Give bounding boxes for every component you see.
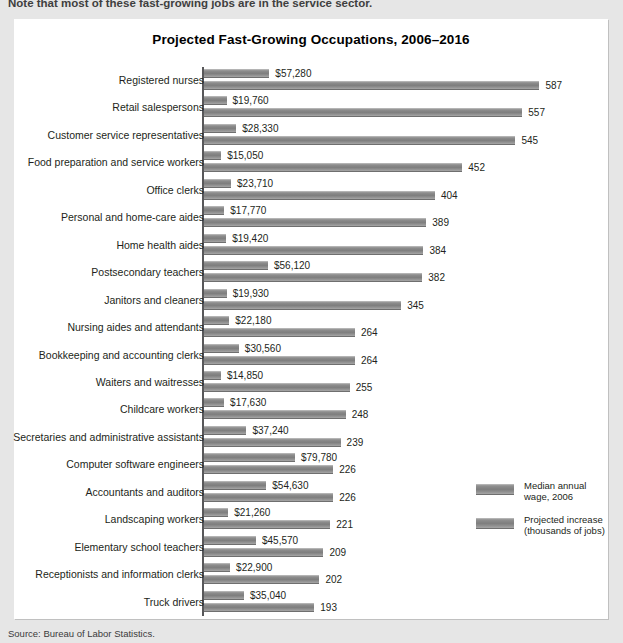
bar-median-wage: [204, 371, 221, 380]
bar-value-wage: $56,120: [274, 260, 310, 271]
bar-median-wage: [204, 481, 266, 490]
bar-projected-increase: [204, 465, 333, 474]
bar-projected-increase: [204, 246, 423, 255]
chart-row: Office clerks$23,710404: [14, 177, 608, 204]
chart-row: Bookkeeping and accounting clerks$30,560…: [14, 342, 608, 369]
bar-group: $35,040193: [204, 589, 608, 616]
bar-value-wage: $79,780: [301, 452, 337, 463]
bar-projected-increase: [204, 548, 323, 557]
category-label: Truck drivers: [144, 589, 204, 616]
bar-value-wage: $22,900: [236, 562, 272, 573]
bar-group: $79,780226: [204, 451, 608, 478]
chart-legend: Median annual wage, 2006Projected increa…: [476, 480, 606, 548]
bar-median-wage: [204, 563, 230, 572]
bar-median-wage: [204, 124, 236, 133]
bar-median-wage: [204, 344, 239, 353]
context-note: Note that most of these fast-growing job…: [8, 0, 608, 10]
bar-median-wage: [204, 261, 268, 270]
legend-label: Median annual wage, 2006: [524, 480, 586, 502]
bar-value-jobs: 248: [352, 409, 369, 420]
category-label: Food preparation and service workers: [28, 149, 204, 176]
chart-row: Waiters and waitresses$14,850255: [14, 369, 608, 396]
category-label: Registered nurses: [119, 67, 204, 94]
bar-value-wage: $19,760: [233, 95, 269, 106]
chart-row: Childcare workers$17,630248: [14, 396, 608, 423]
category-label: Nursing aides and attendants: [67, 314, 204, 341]
bar-value-jobs: 382: [428, 272, 445, 283]
bar-value-jobs: 221: [336, 519, 353, 530]
chart-row: Secretaries and administrative assistant…: [14, 424, 608, 451]
chart-row: Personal and home-care aides$17,770389: [14, 204, 608, 231]
category-label: Customer service representatives: [48, 122, 204, 149]
bar-group: $14,850255: [204, 369, 608, 396]
bar-projected-increase: [204, 493, 333, 502]
bar-group: $30,560264: [204, 342, 608, 369]
category-label: Waiters and waitresses: [96, 369, 204, 396]
chart-row: Registered nurses$57,280587: [14, 67, 608, 94]
chart-row: Computer software engineers$79,780226: [14, 451, 608, 478]
chart-row: Retail salespersons$19,760557: [14, 94, 608, 121]
bar-group: $22,900202: [204, 561, 608, 588]
bar-median-wage: [204, 179, 231, 188]
bar-median-wage: [204, 96, 227, 105]
category-label: Bookkeeping and accounting clerks: [39, 342, 204, 369]
chart-row: Janitors and cleaners$19,930345: [14, 287, 608, 314]
bar-group: $17,770389: [204, 204, 608, 231]
bar-value-jobs: 452: [468, 162, 485, 173]
bar-group: $15,050452: [204, 149, 608, 176]
bar-median-wage: [204, 398, 224, 407]
bar-value-jobs: 193: [320, 602, 337, 613]
bar-value-wage: $54,630: [272, 480, 308, 491]
legend-label: Projected increase (thousands of jobs): [524, 514, 605, 536]
bar-median-wage: [204, 289, 227, 298]
bar-projected-increase: [204, 575, 319, 584]
bar-value-jobs: 239: [347, 437, 364, 448]
category-label: Landscaping workers: [105, 506, 204, 533]
bar-value-wage: $22,180: [235, 315, 271, 326]
bar-value-wage: $15,050: [227, 150, 263, 161]
bar-value-jobs: 264: [361, 355, 378, 366]
bar-value-wage: $19,420: [232, 233, 268, 244]
bar-projected-increase: [204, 108, 522, 117]
bar-value-jobs: 545: [521, 135, 538, 146]
category-label: Janitors and cleaners: [104, 287, 204, 314]
bar-value-wage: $19,930: [233, 288, 269, 299]
source-caption: Source: Bureau of Labor Statistics.: [8, 628, 155, 639]
bar-group: $57,280587: [204, 67, 608, 94]
bar-value-wage: $45,570: [262, 535, 298, 546]
legend-swatch-icon: [476, 518, 514, 529]
bar-median-wage: [204, 69, 269, 78]
bar-median-wage: [204, 151, 221, 160]
bar-value-jobs: 557: [528, 107, 545, 118]
bar-projected-increase: [204, 136, 515, 145]
bar-value-wage: $57,280: [275, 68, 311, 79]
bar-projected-increase: [204, 356, 355, 365]
bar-projected-increase: [204, 410, 346, 419]
legend-item: Projected increase (thousands of jobs): [476, 514, 606, 548]
category-label: Secretaries and administrative assistant…: [13, 424, 204, 451]
category-label: Elementary school teachers: [74, 534, 204, 561]
bar-median-wage: [204, 316, 229, 325]
bar-value-jobs: 587: [545, 80, 562, 91]
category-label: Childcare workers: [120, 396, 204, 423]
bar-projected-increase: [204, 383, 350, 392]
category-label: Computer software engineers: [66, 451, 204, 478]
bar-projected-increase: [204, 218, 426, 227]
bar-projected-increase: [204, 603, 314, 612]
category-label: Receptionists and information clerks: [35, 561, 204, 588]
chart-row: Truck drivers$35,040193: [14, 589, 608, 616]
bar-projected-increase: [204, 520, 330, 529]
chart-row: Receptionists and information clerks$22,…: [14, 561, 608, 588]
category-label: Home health aides: [116, 232, 204, 259]
bar-group: $19,760557: [204, 94, 608, 121]
bar-median-wage: [204, 206, 224, 215]
bar-projected-increase: [204, 301, 401, 310]
category-label: Personal and home-care aides: [61, 204, 204, 231]
bar-value-jobs: 255: [356, 382, 373, 393]
category-label: Retail salespersons: [112, 94, 204, 121]
chart-row: Customer service representatives$28,3305…: [14, 122, 608, 149]
chart-panel: Projected Fast-Growing Occupations, 2006…: [14, 19, 608, 619]
bar-median-wage: [204, 453, 295, 462]
bar-value-jobs: 226: [339, 464, 356, 475]
category-label: Accountants and auditors: [86, 479, 205, 506]
